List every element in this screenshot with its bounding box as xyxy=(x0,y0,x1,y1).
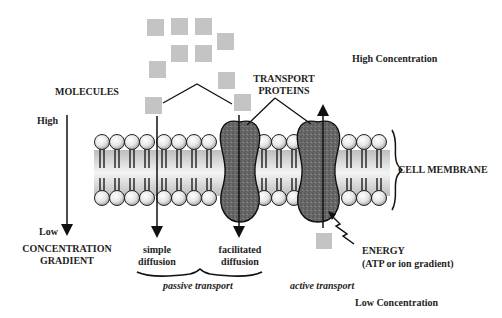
facilitated-diffusion-label-line2: diffusion xyxy=(210,256,270,268)
active-transport-label: active transport xyxy=(290,280,354,292)
molecules-label: MOLECULES xyxy=(55,86,119,98)
passive-transport-brace xyxy=(137,269,262,276)
facilitated-transport-protein xyxy=(220,121,259,222)
high-label: High xyxy=(37,115,58,127)
low-concentration-label: Low Concentration xyxy=(355,297,438,309)
simple-diffusion-label-line1: simple xyxy=(132,244,182,256)
concentration-gradient-label-line1: CONCENTRATION xyxy=(18,243,116,255)
high-concentration-label: High Concentration xyxy=(352,53,437,65)
energy-label-line1: ENERGY xyxy=(362,245,405,257)
simple-diffusion-label-line2: diffusion xyxy=(132,256,182,268)
facilitated-diffusion-label-line1: facilitated xyxy=(210,244,270,256)
concentration-gradient-label-line2: GRADIENT xyxy=(18,255,116,267)
energy-label-line2: (ATP or ion gradient) xyxy=(362,258,454,270)
energy-lightning-icon xyxy=(331,215,354,244)
membrane-transport-diagram: High Concentration MOLECULES TRANSPORT P… xyxy=(0,0,502,318)
transport-proteins-label-line1: TRANSPORT xyxy=(249,73,319,85)
active-transport-protein xyxy=(297,121,339,222)
low-label: Low xyxy=(39,226,58,238)
cell-membrane-label: CELL MEMBRANE xyxy=(398,164,488,176)
passive-transport-label: passive transport xyxy=(163,280,233,292)
transport-proteins-label-line2: PROTEINS xyxy=(249,85,319,97)
